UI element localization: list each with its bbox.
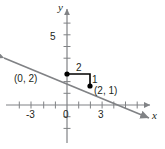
coordinate-plane-figure: y x 5 -3 0 3 (0, 2) (2, 1) 2 1: [0, 0, 165, 149]
x-tick-label-3: 3: [98, 110, 104, 120]
x-axis-label: x: [152, 110, 157, 121]
point-y-intercept: [64, 71, 69, 76]
point-label-second: (2, 1): [94, 86, 117, 96]
x-tick-label-0: 0: [63, 110, 69, 120]
y-tick-label-5: 5: [50, 32, 56, 42]
slope-triangle: [67, 74, 90, 86]
slope-run-label: 2: [76, 63, 82, 73]
x-tick-label-neg3: -3: [26, 110, 35, 120]
y-axis-label: y: [58, 2, 63, 13]
slope-rise-label: 1: [92, 75, 98, 85]
point-label-y-intercept: (0, 2): [14, 74, 37, 84]
